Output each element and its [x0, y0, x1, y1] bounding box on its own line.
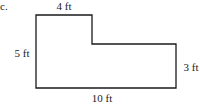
top-dimension-label: 4 ft — [57, 0, 72, 12]
bottom-dimension-label: 10 ft — [92, 92, 112, 104]
l-shape-diagram: c. 4 ft 5 ft 3 ft 10 ft — [0, 0, 200, 104]
l-shape-outline — [36, 15, 176, 88]
left-dimension-label: 5 ft — [15, 47, 30, 59]
right-dimension-label: 3 ft — [184, 61, 199, 73]
problem-label: c. — [0, 0, 8, 12]
